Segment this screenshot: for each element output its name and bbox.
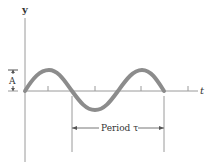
t-axis-label: t [200,85,205,96]
amplitude-label: A [8,76,16,86]
sine-wave-diagram: y t A Period τ [0,0,214,167]
y-axis-label: y [21,4,29,15]
period-label: Period τ [101,123,138,133]
